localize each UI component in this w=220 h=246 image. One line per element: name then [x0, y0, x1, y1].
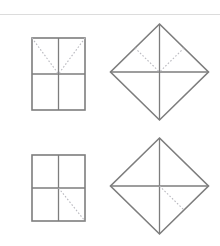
figure-container	[0, 0, 220, 246]
fold-diagram-figure	[0, 0, 220, 246]
panel-bottom-left-square	[32, 155, 85, 221]
panel-top-right-diamond	[111, 24, 209, 120]
panel-top-left-square	[32, 38, 85, 110]
panel-bottom-right-diamond	[111, 138, 209, 234]
